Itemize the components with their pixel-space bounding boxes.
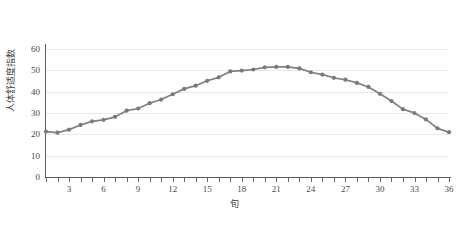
x-axis-tick-label: 15 xyxy=(195,184,219,195)
x-axis-tick-label: 6 xyxy=(92,184,116,195)
x-axis-title: 旬 xyxy=(0,197,469,210)
x-axis-tick xyxy=(184,178,185,182)
data-point-marker xyxy=(148,101,152,105)
x-axis-tick-label: 33 xyxy=(403,184,427,195)
data-point-marker xyxy=(297,66,301,70)
data-point-marker xyxy=(182,87,186,91)
x-axis-tick-label: 21 xyxy=(264,184,288,195)
x-axis-tick-label: 36 xyxy=(437,184,461,195)
x-axis-tick xyxy=(81,178,82,182)
plot-area xyxy=(46,49,449,177)
x-axis-tick xyxy=(391,178,392,182)
data-point-marker xyxy=(286,65,290,69)
data-point-marker xyxy=(67,128,71,132)
x-axis-tick xyxy=(357,178,358,182)
x-axis-tick-label: 27 xyxy=(333,184,357,195)
data-point-marker xyxy=(378,92,382,96)
x-axis-tick xyxy=(288,178,289,182)
y-axis-tick-label: 20 xyxy=(22,129,40,139)
data-point-marker xyxy=(101,118,105,122)
x-axis-tick xyxy=(115,178,116,182)
x-axis-tick-label: 30 xyxy=(368,184,392,195)
data-point-marker xyxy=(90,119,94,123)
data-point-marker xyxy=(125,109,129,113)
x-axis-tick xyxy=(219,178,220,182)
data-point-marker xyxy=(228,69,232,73)
x-axis-tick xyxy=(92,178,93,182)
data-point-marker xyxy=(263,65,267,69)
x-axis-tick xyxy=(127,178,128,182)
data-point-marker xyxy=(55,131,59,135)
y-axis-tick-label: 50 xyxy=(22,65,40,75)
x-axis-tick xyxy=(207,178,208,182)
x-axis-tick-label: 3 xyxy=(57,184,81,195)
data-point-marker xyxy=(320,73,324,77)
series-markers xyxy=(44,65,451,135)
x-axis-tick xyxy=(196,178,197,182)
x-axis-tick-label: 24 xyxy=(299,184,323,195)
x-axis-tick xyxy=(276,178,277,182)
x-axis-tick xyxy=(449,178,450,182)
x-axis-tick xyxy=(311,178,312,182)
data-point-marker xyxy=(205,79,209,83)
x-axis-tick xyxy=(253,178,254,182)
x-axis-tick-label: 9 xyxy=(126,184,150,195)
x-axis-tick xyxy=(230,178,231,182)
series-line-chart xyxy=(46,49,449,177)
data-point-marker xyxy=(78,123,82,127)
data-point-marker xyxy=(159,97,163,101)
x-axis-tick xyxy=(104,178,105,182)
y-axis-tick-label: 0 xyxy=(22,172,40,182)
x-axis-tick xyxy=(46,178,47,182)
x-axis-tick xyxy=(242,178,243,182)
x-axis-tick xyxy=(368,178,369,182)
data-point-marker xyxy=(447,130,451,134)
data-point-marker xyxy=(194,84,198,88)
x-axis-tick xyxy=(334,178,335,182)
data-point-marker xyxy=(251,67,255,71)
x-axis-tick xyxy=(69,178,70,182)
x-axis-tick xyxy=(161,178,162,182)
data-point-marker xyxy=(412,111,416,115)
chart-container: 0102030405060 人体舒适度指数 旬 3691215182124273… xyxy=(0,0,469,225)
y-axis-tick-label: 60 xyxy=(22,44,40,54)
data-point-marker xyxy=(435,126,439,130)
y-axis-tick-label: 40 xyxy=(22,87,40,97)
data-point-marker xyxy=(309,70,313,74)
data-point-marker xyxy=(136,106,140,110)
data-point-marker xyxy=(274,65,278,69)
x-axis-tick-label: 18 xyxy=(230,184,254,195)
x-axis-tick xyxy=(426,178,427,182)
x-axis-tick xyxy=(138,178,139,182)
data-point-marker xyxy=(389,99,393,103)
y-axis-tick-label: 30 xyxy=(22,108,40,118)
data-point-marker xyxy=(332,76,336,80)
data-point-marker xyxy=(217,75,221,79)
x-axis-tick xyxy=(415,178,416,182)
data-point-marker xyxy=(424,117,428,121)
data-point-marker xyxy=(355,81,359,85)
x-axis-tick-label: 12 xyxy=(161,184,185,195)
data-point-marker xyxy=(171,92,175,96)
x-axis-tick xyxy=(150,178,151,182)
x-axis-tick xyxy=(438,178,439,182)
x-axis-tick xyxy=(322,178,323,182)
y-axis-title: 人体舒适度指数 xyxy=(4,36,17,126)
data-point-marker xyxy=(44,129,48,133)
y-axis-tick-labels: 0102030405060 xyxy=(22,0,40,225)
x-axis-tick xyxy=(173,178,174,182)
x-axis-tick xyxy=(265,178,266,182)
data-point-marker xyxy=(343,78,347,82)
data-point-marker xyxy=(113,115,117,119)
x-axis-tick xyxy=(380,178,381,182)
x-axis-tick xyxy=(403,178,404,182)
x-axis-tick xyxy=(299,178,300,182)
y-axis-tick-label: 10 xyxy=(22,151,40,161)
x-axis-ticks xyxy=(46,178,449,183)
x-axis-tick xyxy=(58,178,59,182)
data-point-marker xyxy=(366,85,370,89)
data-point-marker xyxy=(240,68,244,72)
series-polyline xyxy=(46,67,449,133)
x-axis-tick xyxy=(345,178,346,182)
data-point-marker xyxy=(401,107,405,111)
